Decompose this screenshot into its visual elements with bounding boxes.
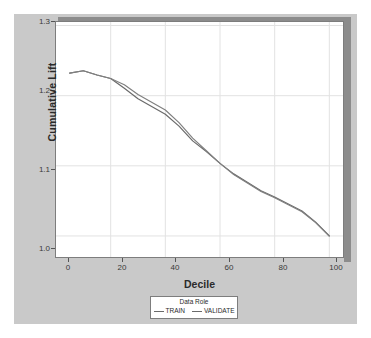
x-tick-label: 20 bbox=[110, 263, 134, 272]
y-tick-label: 1.0 bbox=[24, 244, 50, 253]
y-axis-title: Cumulative Lift bbox=[46, 42, 58, 162]
legend-entry-validate[interactable]: VALIDATE bbox=[192, 307, 234, 315]
x-tick-label: 80 bbox=[271, 263, 295, 272]
x-tick-mark bbox=[175, 258, 176, 262]
x-tick-mark bbox=[283, 258, 284, 262]
x-tick-label: 40 bbox=[163, 263, 187, 272]
x-tick-mark bbox=[68, 258, 69, 262]
y-tick-label: 1.3 bbox=[24, 17, 50, 26]
legend-line-swatch-validate bbox=[192, 311, 202, 312]
x-tick-label: 100 bbox=[324, 263, 348, 272]
legend-line-swatch-train bbox=[154, 311, 164, 312]
chart-screenshot: 1.3 1.2 1.1 1.0 0 20 40 60 80 100 Cumula… bbox=[0, 0, 371, 338]
x-tick-label: 60 bbox=[217, 263, 241, 272]
plot-inner bbox=[56, 22, 343, 257]
x-tick-mark bbox=[229, 258, 230, 262]
y-tick-label: 1.1 bbox=[24, 165, 50, 174]
legend-title: Data Role bbox=[151, 298, 237, 306]
legend: Data Role TRAIN VALIDATE bbox=[150, 296, 238, 319]
plot-shadow-right bbox=[344, 17, 351, 262]
x-tick-mark bbox=[122, 258, 123, 262]
x-tick-label: 0 bbox=[56, 263, 80, 272]
legend-entry-train[interactable]: TRAIN bbox=[154, 307, 186, 315]
plot-area bbox=[55, 21, 344, 258]
legend-label-train: TRAIN bbox=[166, 307, 186, 315]
x-tick-mark bbox=[336, 258, 337, 262]
series-lines bbox=[56, 22, 343, 257]
x-axis-title: Decile bbox=[55, 278, 344, 290]
legend-items: TRAIN VALIDATE bbox=[151, 307, 237, 315]
legend-label-validate: VALIDATE bbox=[204, 307, 234, 315]
